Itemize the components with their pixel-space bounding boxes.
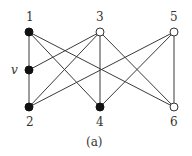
node-label-5: 5: [170, 10, 178, 24]
node-v-filled: [25, 66, 33, 74]
graph-labels: 1v23456: [11, 10, 178, 129]
node-label-6: 6: [170, 115, 178, 129]
node-3-open: [96, 28, 104, 36]
node-6-open: [170, 103, 178, 111]
graph-edges: [29, 32, 174, 107]
node-4-filled: [96, 103, 104, 111]
node-label-4: 4: [96, 115, 104, 129]
node-5-open: [170, 28, 178, 36]
bipartite-graph-diagram: 1v23456 (a): [0, 0, 192, 156]
node-label-3: 3: [96, 10, 104, 24]
node-2-filled: [25, 103, 33, 111]
figure-caption: (a): [86, 135, 103, 149]
node-label-1: 1: [26, 10, 34, 24]
node-label-2: 2: [26, 115, 34, 129]
node-label-v: v: [11, 63, 18, 77]
node-1-filled: [25, 28, 33, 36]
